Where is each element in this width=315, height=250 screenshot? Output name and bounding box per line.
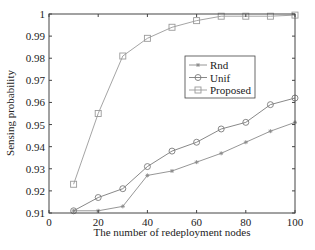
asterisk-marker <box>196 63 200 67</box>
series-layer <box>71 12 298 214</box>
y-tick-label: 0.93 <box>26 163 46 175</box>
y-tick-label: 0.92 <box>26 185 45 197</box>
x-axis-label: The number of redeployment nodes <box>93 226 250 238</box>
legend: RndUnifProposed <box>185 56 255 98</box>
legend-label: Unif <box>210 72 231 84</box>
asterisk-marker <box>268 129 272 133</box>
y-tick-label: 0.94 <box>26 141 46 153</box>
asterisk-marker <box>121 204 125 208</box>
y-tick-label: 0.95 <box>26 119 46 131</box>
legend-label: Proposed <box>210 84 251 96</box>
series-line <box>74 122 295 210</box>
y-axis-label: Sensing probability <box>4 70 16 156</box>
x-tick-label: 0 <box>46 216 52 228</box>
y-tick-label: 0.96 <box>26 96 46 108</box>
legend-label: Rnd <box>210 59 229 71</box>
series-line <box>74 15 295 184</box>
series-rnd <box>72 120 297 212</box>
asterisk-marker <box>195 160 199 164</box>
y-tick-label: 0.91 <box>26 207 45 219</box>
axes: 0204060801000.910.920.930.940.950.960.97… <box>26 8 304 228</box>
y-tick-label: 0.99 <box>26 30 46 42</box>
series-line <box>74 98 295 211</box>
y-tick-label: 1 <box>40 8 46 20</box>
x-tick-label: 100 <box>287 216 304 228</box>
series-unif <box>71 95 298 214</box>
y-tick-label: 0.97 <box>26 74 46 86</box>
asterisk-marker <box>145 173 149 177</box>
asterisk-marker <box>170 169 174 173</box>
asterisk-marker <box>244 140 248 144</box>
series-proposed <box>71 12 298 187</box>
line-chart: 0204060801000.910.920.930.940.950.960.97… <box>0 0 315 250</box>
asterisk-marker <box>219 151 223 155</box>
y-tick-label: 0.98 <box>26 52 46 64</box>
